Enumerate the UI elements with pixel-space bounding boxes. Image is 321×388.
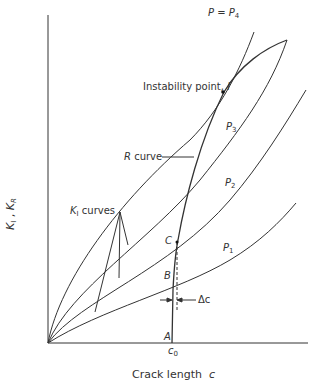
y-axis-label: KI , KR bbox=[4, 198, 18, 230]
k1-leader-2 bbox=[119, 212, 120, 278]
label-k1-curves: KI curves bbox=[70, 206, 115, 218]
label-p1: P1 bbox=[223, 243, 234, 255]
label-r-curve: R curve bbox=[124, 152, 162, 162]
x-axis-label: Crack length c bbox=[132, 369, 215, 380]
point-c-marker bbox=[176, 241, 179, 244]
label-p4: P = P4 bbox=[208, 8, 239, 20]
label-point-b: B bbox=[164, 271, 171, 281]
label-delta-c: Δc bbox=[198, 295, 210, 305]
fracture-diagram bbox=[0, 0, 321, 388]
arrowhead-right bbox=[177, 298, 182, 302]
k1-leader-3 bbox=[120, 212, 128, 245]
x-tick-c0: c0 bbox=[168, 346, 178, 358]
label-instability-point: Instability point, I bbox=[143, 82, 230, 92]
label-p2: P2 bbox=[225, 178, 236, 190]
label-point-a: A bbox=[164, 332, 171, 342]
arrowhead-left bbox=[167, 298, 172, 302]
label-point-c: C bbox=[165, 236, 172, 246]
label-p3: P3 bbox=[226, 122, 237, 134]
